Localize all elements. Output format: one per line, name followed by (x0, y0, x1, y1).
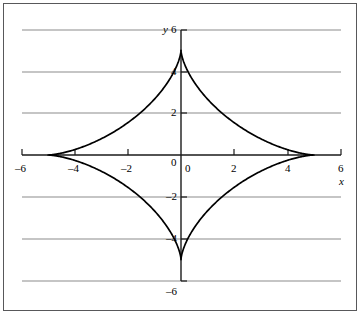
y-tick-label-6: 6 (171, 24, 177, 35)
y-tick-label-0: 0 (171, 157, 177, 168)
y-tick-label-neg2: –2 (166, 191, 177, 202)
x-tick-label-6: 6 (338, 163, 344, 174)
y-tick-label-4: 4 (171, 66, 177, 77)
x-tick-label-4: 4 (285, 163, 291, 174)
x-tick-label-neg2: –2 (121, 163, 132, 174)
y-tick-label-neg6: –6 (166, 286, 177, 297)
plot-canvas (0, 0, 362, 316)
y-tick-label-neg4: –4 (166, 233, 177, 244)
astroid-graph-figure: –6 –4 –2 0 2 4 6 6 4 2 0 –2 –4 –6 y x (0, 0, 362, 316)
x-tick-label-neg6: –6 (15, 163, 26, 174)
x-axis-label: x (339, 176, 344, 187)
x-tick-label-neg4: –4 (68, 163, 79, 174)
y-axis-label: y (163, 24, 168, 35)
x-tick-label-0: 0 (185, 163, 191, 174)
y-tick-label-2: 2 (171, 107, 177, 118)
x-tick-label-2: 2 (231, 163, 237, 174)
